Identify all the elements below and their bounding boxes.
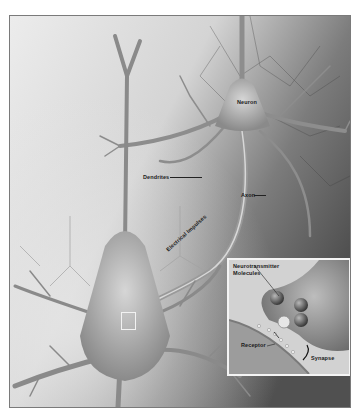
label-neurotransmitter-line1: Neurotransmitter <box>233 263 279 269</box>
dendrites-leader-line <box>170 177 202 178</box>
label-synapse: Synapse <box>311 355 334 361</box>
axon-leader-line <box>254 195 266 196</box>
magnified-region-marker <box>121 312 136 330</box>
label-neuron: Neuron <box>237 99 257 105</box>
label-neurotransmitter-line2: Molecules <box>233 270 261 276</box>
synapse-inset: Neurotransmitter Molecules Receptor Syna… <box>227 258 351 376</box>
illustration-frame: Neuron Dendrites Axon Electrical Impulse… <box>9 15 351 408</box>
label-receptor: Receptor <box>241 342 266 348</box>
label-dendrites: Dendrites <box>143 174 169 180</box>
